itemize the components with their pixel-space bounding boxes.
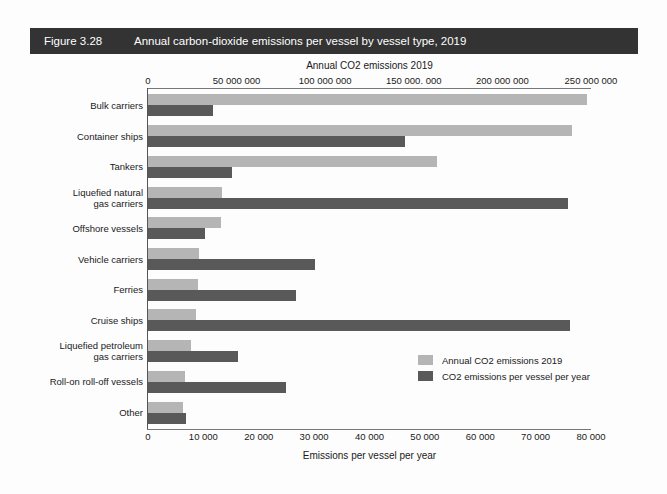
bar-group xyxy=(148,305,591,336)
top-tick-label: 200 000 000 xyxy=(476,75,529,86)
bar-co2-per-vessel xyxy=(148,413,186,424)
bar-co2-per-vessel xyxy=(148,351,238,362)
top-tick-label: 100 000 000 xyxy=(299,75,352,86)
bar-annual-co2 xyxy=(148,187,222,198)
bar-co2-per-vessel xyxy=(148,259,315,270)
bottom-axis-tick-labels: 010 00020 00030 00040 00050 00060 00070 … xyxy=(0,431,667,444)
legend-swatch xyxy=(418,355,433,365)
axis-line-bottom xyxy=(147,429,591,430)
bar-annual-co2 xyxy=(148,125,572,136)
category-label: Ferries xyxy=(18,284,143,295)
top-tick-label: 150 000. 000 xyxy=(386,75,441,86)
category-label: Roll-on roll-off vessels xyxy=(18,376,143,387)
category-label: Liquefied naturalgas carriers xyxy=(18,187,143,209)
category-label: Offshore vessels xyxy=(18,223,143,234)
category-label-line: Container ships xyxy=(18,131,143,142)
top-tick-label: 250 000 000 xyxy=(565,75,618,86)
bar-annual-co2 xyxy=(148,94,587,105)
category-label: Tankers xyxy=(18,161,143,172)
legend-label: Annual CO2 emissions 2019 xyxy=(442,355,562,366)
bar-group xyxy=(148,213,591,244)
bottom-tick-label: 40 000 xyxy=(355,431,384,442)
bar-annual-co2 xyxy=(148,156,437,167)
category-label: Cruise ships xyxy=(18,315,143,326)
legend-label: CO2 emissions per vessel per year xyxy=(442,371,590,382)
category-label-line: Cruise ships xyxy=(18,315,143,326)
bar-group xyxy=(148,182,591,213)
category-label-line: Tankers xyxy=(18,161,143,172)
bottom-tick-label: 60 000 xyxy=(466,431,495,442)
bar-co2-per-vessel xyxy=(148,167,232,178)
category-label-line: Ferries xyxy=(18,284,143,295)
legend-swatch xyxy=(418,371,433,381)
bottom-tick-label: 20 000 xyxy=(244,431,273,442)
top-axis-tick-labels: 050 000 000100 000 000150 000. 000200 00… xyxy=(0,75,667,88)
category-label-line: Offshore vessels xyxy=(18,223,143,234)
category-label-line: Roll-on roll-off vessels xyxy=(18,376,143,387)
category-label: Vehicle carriers xyxy=(18,254,143,265)
bar-annual-co2 xyxy=(148,371,185,382)
bar-group xyxy=(148,274,591,305)
legend-item: Annual CO2 emissions 2019 xyxy=(418,352,590,368)
category-label-line: Liquefied petroleum xyxy=(18,340,143,351)
figure-title-bar: Figure 3.28 Annual carbon-dioxide emissi… xyxy=(30,28,638,54)
bar-group xyxy=(148,151,591,182)
bar-group xyxy=(148,121,591,152)
bar-annual-co2 xyxy=(148,402,183,413)
bottom-axis-title: Emissions per vessel per year xyxy=(148,450,591,461)
top-tick-label: 50 000 000 xyxy=(213,75,261,86)
bar-group xyxy=(148,90,591,121)
bar-annual-co2 xyxy=(148,340,191,351)
bar-annual-co2 xyxy=(148,248,199,259)
bar-co2-per-vessel xyxy=(148,105,213,116)
category-axis-labels: Bulk carriersContainer shipsTankersLique… xyxy=(10,90,143,428)
category-label-line: Vehicle carriers xyxy=(18,254,143,265)
page-title: Annual carbon-dioxide emissions per vess… xyxy=(134,35,466,47)
category-label-line: Bulk carriers xyxy=(18,100,143,111)
bar-co2-per-vessel xyxy=(148,382,286,393)
bar-co2-per-vessel xyxy=(148,320,570,331)
legend-item: CO2 emissions per vessel per year xyxy=(418,368,590,384)
bar-co2-per-vessel xyxy=(148,136,405,147)
bottom-tick-label: 80 000 xyxy=(576,431,605,442)
bar-co2-per-vessel xyxy=(148,198,568,209)
top-tick-label: 0 xyxy=(145,75,150,86)
figure-container: Figure 3.28 Annual carbon-dioxide emissi… xyxy=(0,0,667,494)
figure-number: Figure 3.28 xyxy=(30,35,134,47)
top-axis-title: Annual CO2 emissions 2019 xyxy=(148,60,591,71)
chart-legend: Annual CO2 emissions 2019CO2 emissions p… xyxy=(418,352,590,384)
bar-annual-co2 xyxy=(148,279,198,290)
category-label: Container ships xyxy=(18,131,143,142)
bar-annual-co2 xyxy=(148,309,196,320)
bottom-tick-label: 30 000 xyxy=(300,431,329,442)
bottom-tick-label: 70 000 xyxy=(521,431,550,442)
category-label-line: Other xyxy=(18,407,143,418)
axis-line-top xyxy=(147,88,591,89)
bottom-tick-label: 0 xyxy=(145,431,150,442)
category-label-line: gas carriers xyxy=(18,351,143,362)
category-label-line: Liquefied natural xyxy=(18,187,143,198)
bar-co2-per-vessel xyxy=(148,228,205,239)
category-label: Other xyxy=(18,407,143,418)
bar-group xyxy=(148,397,591,428)
bottom-tick-label: 10 000 xyxy=(189,431,218,442)
category-label-line: gas carriers xyxy=(18,198,143,209)
bar-annual-co2 xyxy=(148,217,221,228)
bar-group xyxy=(148,244,591,275)
category-label: Liquefied petroleumgas carriers xyxy=(18,340,143,362)
category-label: Bulk carriers xyxy=(18,100,143,111)
bottom-tick-label: 50 000 xyxy=(410,431,439,442)
bar-co2-per-vessel xyxy=(148,290,296,301)
